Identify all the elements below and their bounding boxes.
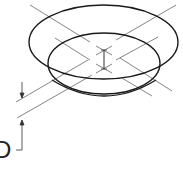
- dish-drawing: [0, 0, 183, 170]
- dimension-label-d: D: [0, 138, 11, 162]
